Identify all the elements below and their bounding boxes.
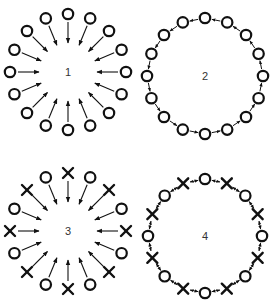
circle-node-icon: [85, 279, 95, 289]
ring-arrow: [148, 83, 150, 91]
inward-arrow: [33, 196, 48, 211]
circle-node-icon: [240, 190, 250, 200]
diagram-1: 1: [5, 9, 131, 135]
diagram-3: 3: [5, 168, 131, 294]
circle-node-icon: [5, 67, 15, 77]
circle-node-icon: [146, 49, 156, 59]
ring-arrow: [260, 83, 262, 91]
circle-node-icon: [253, 93, 263, 103]
double-arrow: [233, 187, 240, 192]
circle-node-icon: [240, 271, 250, 281]
x-node-icon: [253, 253, 263, 263]
inward-arrow: [95, 83, 114, 91]
ring-arrow: [170, 26, 177, 31]
x-node-icon: [222, 178, 232, 188]
circle-node-icon: [9, 89, 19, 99]
circle-node-icon: [116, 45, 126, 55]
circle-node-icon: [41, 120, 51, 130]
circle-node-icon: [41, 172, 51, 182]
inward-arrow: [22, 242, 41, 250]
inward-arrow: [49, 26, 57, 45]
circle-node-icon: [85, 120, 95, 130]
circle-node-icon: [146, 93, 156, 103]
inward-arrow: [79, 258, 87, 277]
x-node-icon: [22, 185, 32, 195]
circle-node-icon: [9, 204, 19, 214]
x-node-icon: [22, 267, 32, 277]
circle-node-icon: [178, 17, 188, 27]
circle-node-icon: [63, 9, 73, 19]
ring-arrow: [233, 121, 240, 126]
diagram-label: 1: [65, 66, 71, 78]
circle-node-icon: [159, 30, 169, 40]
circle-node-icon: [258, 71, 268, 81]
x-node-icon: [178, 178, 188, 188]
inward-arrow: [89, 93, 104, 108]
circle-node-icon: [200, 288, 210, 298]
inward-arrow: [33, 252, 48, 267]
circle-node-icon: [104, 108, 114, 118]
inward-arrow: [95, 53, 114, 61]
circle-node-icon: [22, 26, 32, 36]
ring-arrow: [260, 61, 262, 69]
x-node-icon: [253, 209, 263, 219]
diagram-4: 4: [143, 174, 267, 298]
double-arrow: [233, 280, 240, 285]
x-node-icon: [121, 226, 131, 236]
inward-arrow: [49, 258, 57, 277]
inward-arrow: [89, 37, 104, 52]
inward-arrow: [49, 185, 57, 204]
circle-node-icon: [200, 129, 210, 139]
inward-arrow: [22, 212, 41, 220]
x-node-icon: [5, 226, 15, 236]
circle-node-icon: [159, 190, 169, 200]
circle-node-icon: [116, 248, 126, 258]
ring-arrow: [155, 104, 160, 111]
circle-node-icon: [41, 279, 51, 289]
circle-node-icon: [121, 67, 131, 77]
circle-node-icon: [253, 49, 263, 59]
circle-node-icon: [116, 89, 126, 99]
ring-arrow: [212, 19, 220, 21]
circle-node-icon: [257, 231, 267, 241]
double-arrow: [249, 264, 254, 271]
circle-node-icon: [241, 30, 251, 40]
double-arrow: [259, 221, 261, 229]
inward-arrow: [89, 252, 104, 267]
double-arrow: [171, 280, 178, 285]
inward-arrow: [79, 99, 87, 118]
ring-arrow: [250, 41, 255, 48]
ring-arrow: [190, 19, 198, 21]
inward-arrow: [33, 93, 48, 108]
inward-arrow: [49, 99, 57, 118]
x-node-icon: [104, 267, 114, 277]
inward-arrow: [22, 83, 41, 91]
double-arrow: [156, 202, 161, 209]
ring-arrow: [170, 121, 177, 126]
double-arrow: [212, 180, 220, 182]
diagram-label: 3: [65, 225, 71, 237]
ring-arrow: [148, 61, 150, 69]
ring-arrow: [250, 104, 255, 111]
x-node-icon: [63, 168, 73, 178]
circle-node-icon: [9, 248, 19, 258]
circle-node-icon: [63, 125, 73, 135]
circle-node-icon: [85, 13, 95, 23]
double-arrow: [149, 243, 151, 251]
circle-node-icon: [159, 112, 169, 122]
inward-arrow: [89, 196, 104, 211]
inward-arrow: [95, 212, 114, 220]
circle-node-icon: [241, 112, 251, 122]
circle-node-icon: [222, 124, 232, 134]
double-arrow: [156, 264, 161, 271]
inward-arrow: [33, 37, 48, 52]
inward-arrow: [79, 26, 87, 45]
circle-node-icon: [143, 231, 153, 241]
diagram-2: 2: [142, 13, 268, 139]
ring-arrow: [190, 131, 198, 133]
circle-node-icon: [104, 26, 114, 36]
double-arrow: [249, 202, 254, 209]
circle-node-icon: [85, 172, 95, 182]
x-node-icon: [104, 185, 114, 195]
ring-arrow: [233, 26, 240, 31]
